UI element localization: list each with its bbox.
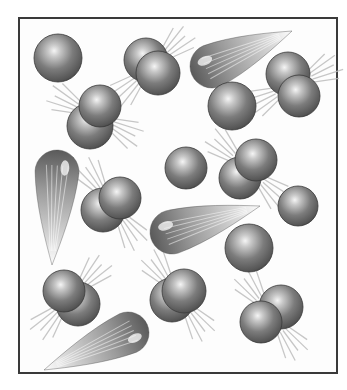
- single-atom: [34, 34, 82, 82]
- motion-line: [208, 152, 230, 161]
- motion-line: [313, 78, 339, 82]
- molecule-atom-b: [43, 270, 85, 312]
- single-atom: [225, 224, 273, 272]
- single-atom: [208, 82, 256, 130]
- motion-line: [184, 314, 192, 339]
- motion-line: [248, 88, 274, 92]
- motion-line: [117, 223, 125, 248]
- motion-line: [277, 333, 285, 358]
- molecule-atom-b: [79, 85, 121, 127]
- motion-line: [170, 48, 194, 59]
- fast-particle: [36, 305, 156, 389]
- molecule-atom-b: [235, 139, 277, 181]
- motion-line: [163, 252, 171, 277]
- motion-line: [79, 257, 89, 279]
- motion-line: [266, 177, 288, 186]
- motion-line: [115, 119, 139, 122]
- motion-line: [98, 160, 106, 185]
- motion-line: [114, 122, 144, 131]
- single-atom: [278, 186, 318, 226]
- molecule-atom-b: [162, 269, 206, 313]
- motion-line: [256, 271, 264, 296]
- motion-line: [53, 316, 63, 338]
- molecule-atom-b: [240, 301, 282, 343]
- molecule-atom-b: [136, 51, 180, 95]
- motion-line: [313, 69, 344, 79]
- particles: [34, 34, 320, 343]
- molecule-atom-b: [278, 75, 320, 117]
- particle-illustration: [0, 0, 347, 390]
- molecule-atom-b: [99, 177, 141, 219]
- single-atom: [165, 147, 207, 189]
- motion-line: [110, 75, 134, 86]
- motion-line: [46, 101, 76, 110]
- fast-particle: [30, 149, 80, 266]
